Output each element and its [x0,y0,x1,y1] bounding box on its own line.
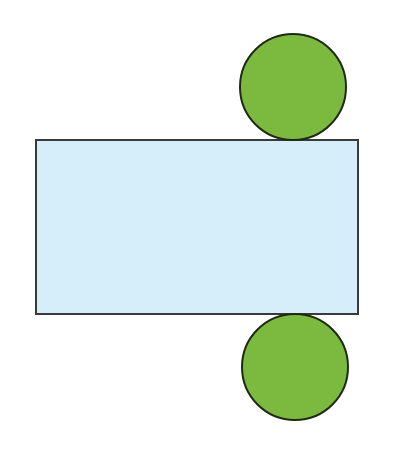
cylinder-net-diagram [0,0,398,471]
lateral-surface-rectangle [36,140,358,314]
top-base-circle [240,34,346,140]
bottom-base-circle [242,314,348,420]
